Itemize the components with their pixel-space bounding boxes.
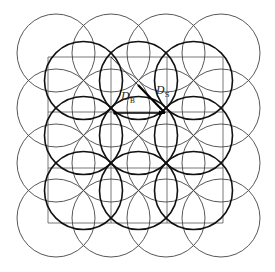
label-d-b-main: D bbox=[121, 90, 130, 103]
label-d-b-sub: B bbox=[130, 97, 135, 105]
outer-circles bbox=[17, 14, 260, 257]
label-d-s-main: D bbox=[156, 84, 165, 97]
label-d-s: DS bbox=[156, 85, 170, 99]
diagonal-thin-line bbox=[111, 57, 138, 85]
label-d-s-sub: S bbox=[165, 91, 170, 99]
circle-lattice-diagram: DB DS bbox=[0, 0, 275, 272]
db-start-dot bbox=[113, 111, 117, 115]
label-d-b: DB bbox=[121, 91, 135, 105]
diagram-canvas bbox=[0, 0, 275, 272]
